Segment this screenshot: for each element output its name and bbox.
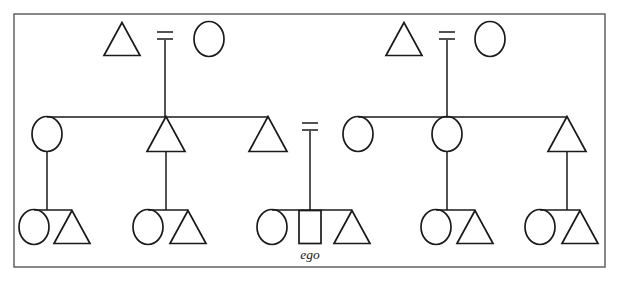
ego-label: ego — [300, 247, 320, 262]
kin-node-female-n15 — [257, 210, 287, 245]
kinship-figure: ego — [0, 0, 619, 281]
marriage-layer — [157, 32, 455, 130]
marriage-left-ancestors — [157, 32, 173, 39]
label-layer: ego — [300, 247, 320, 262]
kin-node-male-n17 — [334, 211, 370, 244]
kin-node-male-n19 — [457, 211, 493, 244]
kin-node-male-n14 — [170, 211, 206, 244]
kin-node-female-n5 — [32, 117, 62, 152]
kin-node-female-n11 — [19, 210, 49, 245]
kin-node-male-n3 — [386, 23, 422, 56]
kin-node-male-n7 — [249, 117, 287, 152]
kin-node-female-n20 — [525, 210, 555, 245]
node-layer — [19, 22, 598, 245]
kin-node-female-n9 — [432, 117, 462, 152]
kin-node-female-n13 — [133, 210, 163, 245]
kin-node-female-n18 — [421, 210, 451, 245]
kin-node-male-n10 — [548, 117, 586, 152]
kinship-diagram-canvas: ego — [0, 0, 619, 281]
kin-node-female-n4 — [475, 22, 505, 57]
kin-node-female-n2 — [194, 22, 224, 57]
descent-line-layer — [47, 40, 567, 210]
kin-node-male-n1 — [104, 23, 140, 56]
kin-node-male-n12 — [54, 211, 90, 244]
marriage-ego-parents — [302, 123, 318, 130]
kin-node-ego-n16 — [299, 211, 321, 244]
kin-node-female-n8 — [343, 117, 373, 152]
kin-node-male-n6 — [147, 117, 185, 152]
marriage-right-ancestors — [439, 32, 455, 39]
sibling-bar-layer — [34, 117, 580, 210]
kin-node-male-n21 — [562, 211, 598, 244]
